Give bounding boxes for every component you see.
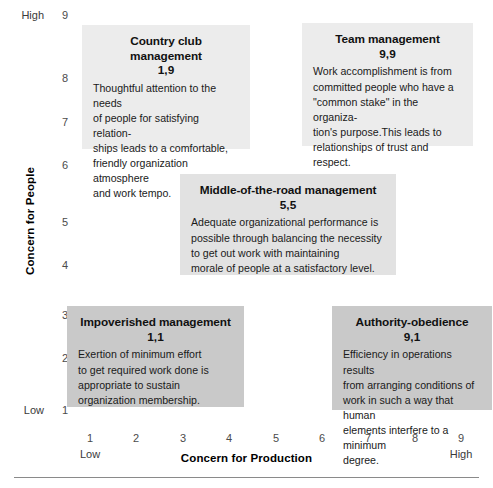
cell-impoverished-management[interactable]: Impoverished management 1,1 Exertion of … [67, 306, 244, 407]
x-tick-9: 9 [450, 432, 472, 444]
y-tick-6: 6 [46, 159, 68, 171]
cell-team-title: Team management [313, 32, 462, 47]
y-axis-low-label: Low [0, 404, 44, 416]
x-tick-6: 6 [311, 432, 333, 444]
cell-team-body: Work accomplishment is from committed pe… [313, 64, 462, 169]
y-tick-2: 2 [46, 352, 68, 364]
bottom-divider [14, 477, 479, 478]
x-tick-8: 8 [404, 432, 426, 444]
cell-team-coord: 9,9 [313, 47, 462, 62]
y-axis-high-label: High [0, 9, 44, 21]
y-tick-7: 7 [46, 116, 68, 128]
y-axis-title: Concern for People [24, 151, 36, 291]
cell-impoverished-coord: 1,1 [78, 330, 233, 345]
cell-authority-obedience[interactable]: Authority-obedience 9,1 Efficiency in op… [332, 306, 492, 410]
x-tick-1: 1 [79, 432, 101, 444]
cell-impoverished-body: Exertion of minimum effort to get requir… [78, 347, 233, 407]
x-tick-5: 5 [265, 432, 287, 444]
cell-country-club-title: Country club management [93, 34, 239, 63]
x-tick-4: 4 [218, 432, 240, 444]
cell-middle-body: Adequate organizational performance is p… [191, 215, 385, 275]
cell-team-management[interactable]: Team management 9,9 Work accomplishment … [302, 23, 473, 146]
cell-middle-of-the-road-management[interactable]: Middle-of-the-road management 5,5 Adequa… [180, 174, 396, 275]
y-tick-4: 4 [46, 259, 68, 271]
cell-middle-coord: 5,5 [191, 198, 385, 213]
cell-impoverished-title: Impoverished management [78, 315, 233, 330]
cell-authority-title: Authority-obedience [343, 315, 481, 330]
cell-country-club-coord: 1,9 [93, 63, 239, 78]
y-tick-3: 3 [46, 309, 68, 321]
y-tick-1: 1 [46, 404, 68, 416]
cell-country-club-management[interactable]: Country club management 1,9 Thoughtful a… [82, 25, 250, 149]
x-tick-2: 2 [125, 432, 147, 444]
cell-authority-coord: 9,1 [343, 330, 481, 345]
y-tick-9: 9 [46, 9, 68, 21]
x-axis-title: Concern for Production [0, 452, 493, 464]
y-tick-5: 5 [46, 216, 68, 228]
cell-middle-title: Middle-of-the-road management [191, 183, 385, 198]
managerial-grid-diagram: Concern for People 9 8 7 6 5 4 3 2 1 Hig… [0, 0, 493, 488]
x-tick-3: 3 [172, 432, 194, 444]
y-tick-8: 8 [46, 72, 68, 84]
x-tick-7: 7 [357, 432, 379, 444]
